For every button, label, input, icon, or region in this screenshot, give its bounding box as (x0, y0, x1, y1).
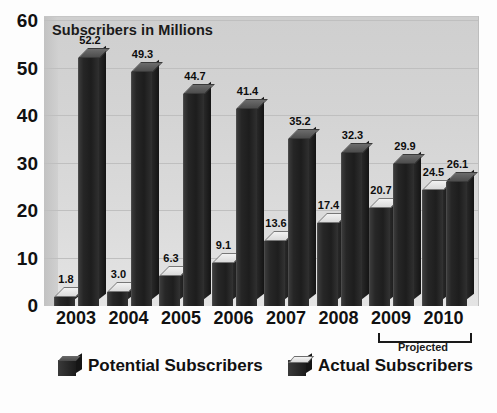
y-axis-tick-label: 50 (0, 59, 38, 78)
x-axis-tick-label-2007: 2007 (256, 308, 316, 329)
legend-label: Actual Subscribers (318, 356, 473, 376)
y-axis: 0102030405060 (0, 0, 44, 413)
plot-area: 1.852.23.049.36.344.79.141.413.635.217.4… (44, 16, 479, 306)
chart-legend: Potential SubscribersActual Subscribers (0, 356, 497, 400)
bar-front-face (446, 182, 467, 306)
bar-front-face (317, 223, 338, 306)
bar-actual-2007[interactable] (264, 241, 284, 306)
x-axis-tick-label-2008: 2008 (309, 308, 369, 329)
bar-potential-2005[interactable] (183, 94, 203, 306)
bar-value-label: 32.3 (336, 129, 370, 141)
x-axis-tick-label-2004: 2004 (99, 308, 159, 329)
x-axis-tick-label-2005: 2005 (151, 308, 211, 329)
bar-front-face (54, 297, 75, 306)
legend-label: Potential Subscribers (88, 356, 263, 376)
bar-actual-2005[interactable] (159, 276, 179, 306)
bar-potential-2010[interactable] (446, 182, 466, 306)
bar-value-label: 41.4 (231, 85, 265, 97)
bar-side-face (466, 170, 474, 300)
y-axis-tick-label: 10 (0, 249, 38, 268)
y-axis-tick-label: 30 (0, 154, 38, 173)
bar-side-face (256, 97, 264, 300)
bar-side-face (203, 81, 211, 300)
bar-front-face (264, 241, 285, 306)
bar-actual-2003[interactable] (54, 297, 74, 306)
bar-value-label: 35.2 (283, 115, 317, 127)
bar-actual-2009[interactable] (369, 208, 389, 306)
bar-front-face (369, 208, 390, 306)
x-axis-tick-label-2003: 2003 (46, 308, 106, 329)
legend-swatch-front (58, 360, 76, 376)
bar-actual-2006[interactable] (212, 263, 232, 306)
bar-side-face (308, 127, 316, 300)
bar-actual-2010[interactable] (422, 190, 442, 306)
dark-top-cube-icon (58, 356, 80, 376)
y-axis-tick-label: 60 (0, 11, 38, 30)
gridline (44, 20, 478, 21)
light-top-cube-icon (288, 356, 310, 376)
bar-value-label: 49.3 (126, 48, 160, 60)
bar-front-face (159, 276, 180, 306)
gridline (44, 68, 478, 69)
bar-chart-figure: 1.852.23.049.36.344.79.141.413.635.217.4… (0, 0, 497, 413)
bar-value-label: 44.7 (178, 70, 212, 82)
bar-front-face (212, 263, 233, 306)
bar-front-face (393, 164, 414, 306)
x-axis-tick-label-2006: 2006 (204, 308, 264, 329)
bar-front-face (236, 109, 257, 306)
x-axis-tick-label-2010: 2010 (414, 308, 474, 329)
bar-side-face (98, 46, 106, 300)
bar-actual-2004[interactable] (107, 292, 127, 306)
bar-side-face (361, 140, 369, 300)
bar-potential-2003[interactable] (78, 58, 98, 306)
bar-potential-2007[interactable] (288, 139, 308, 306)
x-axis-tick-label-2009: 2009 (361, 308, 421, 329)
legend-item-actual-subscribers[interactable]: Actual Subscribers (288, 356, 473, 376)
bar-front-face (422, 190, 443, 306)
x-axis: 20032004200520062007200820092010 (0, 308, 497, 334)
y-axis-tick-label: 40 (0, 106, 38, 125)
chart-title: Subscribers in Millions (52, 22, 213, 38)
bar-front-face (78, 58, 99, 306)
bar-value-label: 29.9 (388, 140, 422, 152)
bar-actual-2008[interactable] (317, 223, 337, 306)
y-axis-tick-label: 20 (0, 201, 38, 220)
plot-left-wall (44, 17, 58, 306)
bar-front-face (131, 72, 152, 306)
bar-potential-2009[interactable] (393, 164, 413, 306)
bar-front-face (288, 139, 309, 306)
bar-front-face (341, 153, 362, 306)
bar-value-label: 26.1 (441, 158, 475, 170)
bar-front-face (107, 292, 128, 306)
legend-item-potential-subscribers[interactable]: Potential Subscribers (58, 356, 263, 376)
bar-potential-2006[interactable] (236, 109, 256, 306)
bar-front-face (183, 94, 204, 306)
bar-potential-2004[interactable] (131, 72, 151, 306)
bar-potential-2008[interactable] (341, 153, 361, 306)
projected-label: Projected (378, 341, 468, 353)
